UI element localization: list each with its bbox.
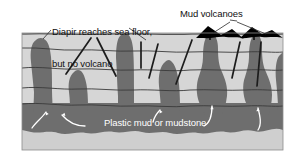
label-plastic-mud-or-mudstone: Plastic mud or mudstone: [104, 117, 206, 128]
figure-root: Diapir reaches sea floor, but no volcano…: [0, 0, 304, 161]
label-diapir-line1: Diapir reaches sea floor,: [52, 27, 152, 38]
label-diapir-reaches-sea-floor: Diapir reaches sea floor, but no volcano: [52, 6, 152, 90]
label-mud-volcanoes: Mud volcanoes: [180, 9, 243, 20]
label-diapir-line2: but no volcano: [52, 59, 152, 70]
cross-section-diagram: [0, 0, 304, 161]
